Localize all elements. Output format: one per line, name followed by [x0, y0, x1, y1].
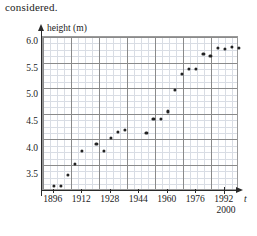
x-tick-label: 1896 — [38, 194, 68, 204]
x-tick-label: 1944 — [123, 194, 153, 204]
x-tick-mark — [195, 189, 196, 193]
y-tick-label: 5.5 — [16, 63, 38, 73]
pole-vault-scatter-figure: height (m) t 3.54.04.55.05.56.0 18961912… — [0, 24, 257, 236]
y-axis-line — [41, 30, 42, 196]
x-tick-label: 1960 — [152, 194, 182, 204]
x-axis-title: t — [244, 194, 247, 204]
year-2000-tick-label: 2000 — [209, 205, 243, 215]
x-tick-label: 1992 — [209, 194, 239, 204]
x-tick-mark — [53, 189, 54, 193]
year-2000-tick-mark — [224, 187, 225, 194]
x-tick-label: 1976 — [180, 194, 210, 204]
major-gridlines — [43, 37, 237, 189]
data-point — [237, 46, 240, 49]
x-tick-mark — [81, 189, 82, 193]
x-tick-label: 1928 — [95, 194, 125, 204]
y-tick-label: 5.0 — [16, 89, 38, 99]
intro-text: considered. — [5, 1, 58, 13]
y-tick-label: 3.5 — [16, 169, 38, 179]
y-tick-label: 4.0 — [16, 143, 38, 153]
x-axis-arrow-icon — [236, 187, 243, 193]
x-tick-mark — [138, 189, 139, 193]
x-axis-line — [41, 190, 238, 191]
y-tick-label: 4.5 — [16, 116, 38, 126]
y-axis-arrow-icon — [38, 24, 44, 31]
x-tick-label: 1912 — [66, 194, 96, 204]
y-axis-title: height (m) — [47, 23, 87, 33]
y-tick-labels: 3.54.04.55.05.56.0 — [14, 36, 38, 190]
plot-area — [42, 36, 238, 190]
y-tick-label: 6.0 — [16, 36, 38, 46]
x-tick-mark — [167, 189, 168, 193]
x-tick-mark — [110, 189, 111, 193]
